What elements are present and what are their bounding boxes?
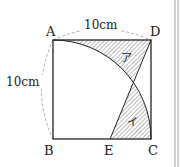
point-label-b: B — [44, 143, 54, 158]
point-label-a: A — [45, 24, 56, 39]
point-label-c: C — [148, 143, 158, 158]
geometry-figure: A D B E C 10cm 10cm ア イ — [0, 0, 181, 167]
left-dimension-arc — [42, 40, 54, 139]
top-dimension-label: 10cm — [84, 18, 118, 32]
region-a-label: ア — [121, 52, 132, 65]
point-label-d: D — [150, 24, 160, 39]
left-dimension-label: 10cm — [6, 75, 40, 89]
point-label-e: E — [104, 143, 114, 158]
region-i-label: イ — [127, 116, 138, 129]
